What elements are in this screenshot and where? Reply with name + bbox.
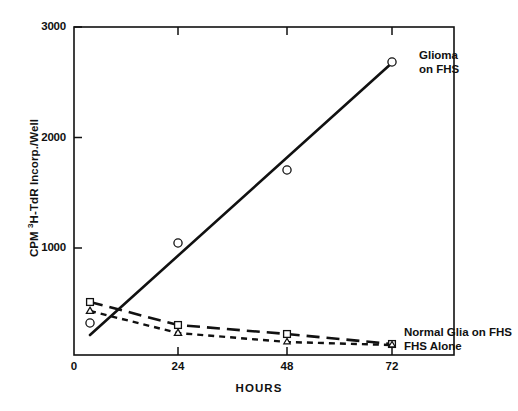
series-glioma-line bbox=[90, 62, 393, 335]
x-tick-label-72: 72 bbox=[374, 360, 410, 372]
data-point-normal-glia-24h bbox=[175, 322, 182, 329]
y-axis-title-suffix: H-TdR Incorp./Well bbox=[28, 119, 40, 223]
x-axis-title: HOURS bbox=[0, 382, 518, 394]
data-point-fhs-alone-24h bbox=[174, 329, 181, 335]
data-point-normal-glia-48h bbox=[284, 331, 291, 338]
y-tick-label-3000: 3000 bbox=[4, 20, 66, 32]
series-glioma-on-fhs bbox=[86, 58, 396, 335]
data-point-glioma-48h bbox=[283, 166, 291, 174]
x-tick-label-24: 24 bbox=[160, 360, 196, 372]
y-axis-title: CPM 3H-TdR Incorp./Well bbox=[28, 68, 40, 308]
series-normal-glia-on-fhs bbox=[87, 299, 396, 348]
data-point-normal-glia-6h bbox=[87, 299, 94, 306]
data-point-glioma-6h bbox=[86, 319, 94, 327]
y-axis-ticks bbox=[74, 27, 82, 248]
series-label-normal-glia: Normal Glia on FHS bbox=[404, 326, 512, 340]
axis-frame bbox=[74, 27, 454, 355]
data-point-fhs-alone-48h bbox=[284, 338, 290, 343]
y-axis-title-prefix: CPM bbox=[28, 228, 40, 257]
series-label-fhs-alone: FHS Alone bbox=[404, 340, 462, 354]
series-label-glioma-line1: Glioma bbox=[419, 49, 459, 63]
series-label-glioma: Glioma on FHS bbox=[419, 49, 459, 76]
data-point-fhs-alone-6h bbox=[86, 307, 93, 313]
x-tick-label-48: 48 bbox=[269, 360, 305, 372]
data-point-glioma-24h bbox=[174, 239, 182, 247]
x-tick-label-0: 0 bbox=[56, 360, 92, 372]
data-point-glioma-72h bbox=[388, 58, 396, 66]
y-axis-title-superscript: 3 bbox=[26, 223, 35, 228]
series-label-glioma-line2: on FHS bbox=[419, 63, 459, 77]
x-axis-ticks bbox=[178, 27, 392, 355]
chart-figure: 3000 2000 1000 0 24 48 72 HOURS CPM 3H-T… bbox=[0, 0, 518, 411]
plot-border bbox=[74, 27, 454, 355]
